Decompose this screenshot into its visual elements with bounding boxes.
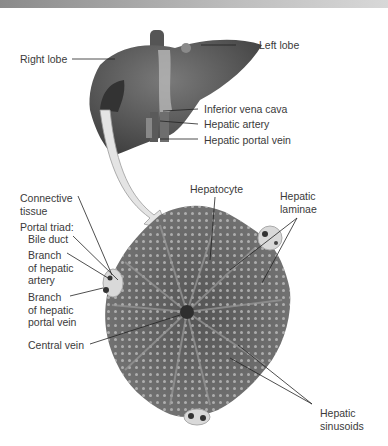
label-right-lobe: Right lobe: [20, 53, 67, 66]
liver-lobule: [103, 206, 290, 425]
label-bile-duct: Bile duct: [28, 233, 68, 246]
label-inferior-vena-cava: Inferior vena cava: [204, 103, 287, 116]
label-branch-hepatic-artery: Branch of hepatic artery: [28, 249, 74, 287]
label-hepatic-portal-vein: Hepatic portal vein: [204, 134, 291, 147]
label-hepatic-sinusoids: Hepatic sinusoids: [320, 407, 364, 432]
label-branch-hepatic-portal-vein: Branch of hepatic portal vein: [28, 291, 76, 329]
label-portal-triad: Portal triad:: [20, 221, 74, 234]
label-hepatic-artery: Hepatic artery: [204, 118, 269, 131]
label-hepatocyte: Hepatocyte: [190, 183, 243, 196]
label-hepatic-laminae: Hepatic laminae: [280, 190, 317, 215]
label-central-vein: Central vein: [28, 339, 84, 352]
label-connective-tissue: Connective tissue: [20, 192, 73, 217]
label-left-lobe: Left lobe: [259, 39, 299, 52]
central-vein: [180, 305, 194, 319]
